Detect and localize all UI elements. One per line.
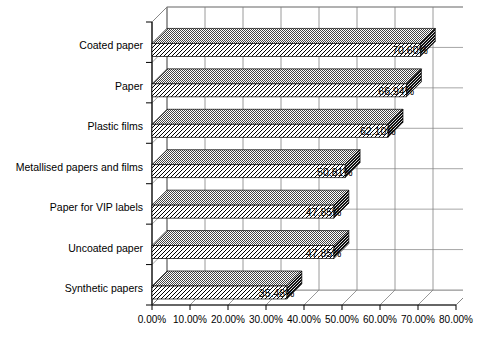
bar-top-face (152, 28, 435, 43)
gridline-floor-depth (190, 290, 205, 305)
value-label-3: 62.10% (360, 126, 396, 137)
category-depth-line (152, 88, 167, 103)
category-depth-line (152, 7, 167, 22)
gridline-floor-depth (380, 290, 395, 305)
value-label-4: 50.81% (317, 167, 353, 178)
gridline-floor-depth (418, 290, 433, 305)
x-tick-label-5: 40.00% (283, 314, 325, 325)
gridline-floor-depth (456, 290, 463, 305)
bar-top-face (152, 231, 349, 246)
category-label-3: Plastic films (0, 121, 143, 132)
category-label-4: Metallised papers and films (0, 162, 143, 173)
value-label-5: 47.85% (306, 207, 342, 218)
value-label-6: 47.85% (306, 248, 342, 259)
value-label-7: 35.48% (259, 288, 295, 299)
x-tick-label-6: 50.00% (321, 314, 363, 325)
x-tick-label-9: 80.00% (435, 314, 477, 325)
gridline-floor-depth (228, 290, 243, 305)
bar-top-face (152, 150, 360, 165)
x-tick-label-8: 70.00% (397, 314, 439, 325)
category-depth-line (152, 209, 167, 224)
plot-left-wall (152, 7, 167, 305)
value-label-1: 70.60% (392, 45, 428, 56)
bar-front-face[interactable] (152, 43, 420, 56)
x-tick-label-3: 20.00% (207, 314, 249, 325)
bar-front-face[interactable] (152, 124, 388, 137)
x-tick-label-7: 60.00% (359, 314, 401, 325)
category-label-2: Paper (0, 81, 143, 92)
bar-top-face (152, 190, 349, 205)
category-depth-line (152, 169, 167, 184)
category-label-7: Synthetic papers (0, 283, 143, 294)
gridline-floor-depth (304, 290, 319, 305)
category-depth-line (152, 128, 167, 143)
bar-top-face (152, 109, 403, 124)
x-tick-label-1: 0.00% (131, 314, 173, 325)
category-label-1: Coated paper (0, 40, 143, 51)
category-depth-line (152, 47, 167, 62)
bar-top-face (152, 69, 421, 84)
plot-floor (152, 290, 463, 305)
gridline-floor-depth (152, 290, 167, 305)
bar-top-face (152, 271, 302, 286)
category-depth-line (152, 250, 167, 265)
bar-front-face[interactable] (152, 84, 406, 97)
x-tick-label-2: 10.00% (169, 314, 211, 325)
category-label-6: Uncoated paper (0, 243, 143, 254)
gridline-floor-depth (342, 290, 357, 305)
x-tick-label-4: 30.00% (245, 314, 287, 325)
category-label-5: Paper for VIP labels (0, 202, 143, 213)
value-label-2: 66.94% (378, 86, 414, 97)
